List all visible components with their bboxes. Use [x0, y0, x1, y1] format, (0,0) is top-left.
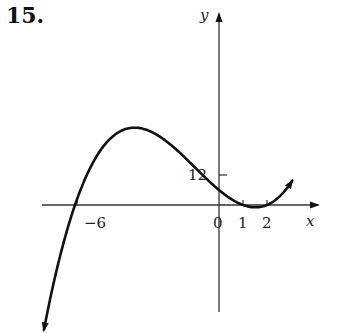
x-axis-label: x [306, 212, 315, 230]
tick-label-0: 0 [213, 214, 223, 232]
curve-left-arrow [44, 180, 85, 331]
tick-label-neg6: −6 [84, 214, 106, 232]
tick-label-2: 2 [262, 214, 272, 232]
axis-ticks [77, 175, 267, 205]
cubic-graph: y x −6 0 1 2 12 [0, 0, 342, 333]
y-axis-label: y [199, 6, 209, 24]
tick-label-12: 12 [188, 166, 207, 184]
tick-label-1: 1 [238, 214, 248, 232]
